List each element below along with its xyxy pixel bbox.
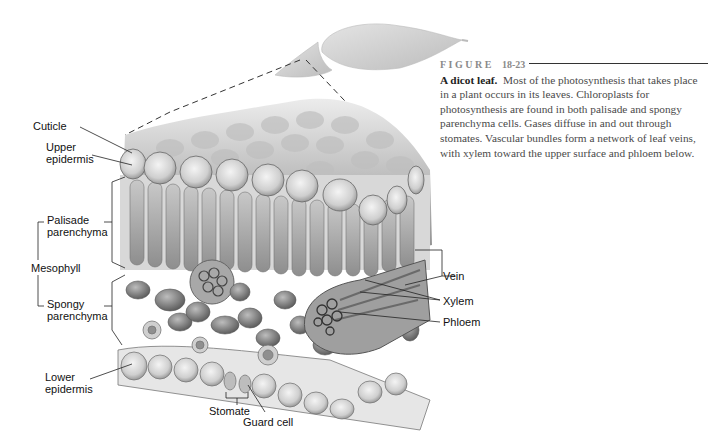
- label-xylem: Xylem: [443, 295, 474, 307]
- figure-heading: FIGURE 18-23: [440, 58, 708, 73]
- label-palisade-line1: Palisade: [47, 214, 89, 226]
- label-cuticle: Cuticle: [33, 120, 67, 132]
- caption-body: A dicot leaf. Most of the photosynthesis…: [440, 73, 708, 161]
- figure-label: FIGURE: [440, 58, 494, 73]
- figure-number: 18-23: [502, 58, 525, 73]
- figure-rule: [529, 63, 708, 64]
- figure-caption: FIGURE 18-23 A dicot leaf. Most of the p…: [440, 58, 708, 160]
- label-lower-epidermis-line1: Lower: [45, 371, 75, 383]
- caption-title: A dicot leaf.: [440, 74, 497, 86]
- label-upper-epidermis-line1: Upper: [46, 141, 76, 153]
- label-phloem: Phloem: [443, 316, 480, 328]
- label-guard-cell: Guard cell: [243, 416, 293, 428]
- label-spongy-line1: Spongy: [47, 298, 84, 310]
- label-upper-epidermis-line2: epidermis: [46, 153, 94, 165]
- caption-text: Most of the photosynthesis that takes pl…: [440, 74, 698, 159]
- label-lower-epidermis-line2: epidermis: [45, 383, 93, 395]
- label-spongy-line2: parenchyma: [47, 310, 108, 322]
- label-mesophyll: Mesophyll: [31, 262, 81, 274]
- minor-vein: [190, 260, 234, 304]
- label-vein: Vein: [443, 270, 464, 282]
- label-palisade-line2: parenchyma: [47, 226, 108, 238]
